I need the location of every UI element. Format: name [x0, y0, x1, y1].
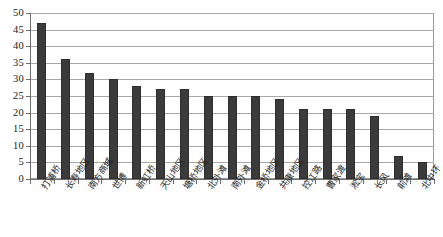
x-tick-mark [315, 180, 316, 184]
x-tick-mark [196, 180, 197, 184]
x-tick-mark [149, 180, 150, 184]
x-tick-mark [244, 180, 245, 184]
bar[interactable] [61, 59, 70, 179]
x-tick-mark [434, 180, 435, 184]
bar[interactable] [204, 96, 213, 179]
bar[interactable] [370, 116, 379, 179]
bar[interactable] [251, 96, 260, 179]
y-tick-label: 30 [0, 74, 24, 84]
y-tick-label: 20 [0, 108, 24, 118]
bar[interactable] [109, 79, 118, 179]
y-tick-label: 0 [0, 174, 24, 184]
x-tick-mark [173, 180, 174, 184]
x-tick-mark [125, 180, 126, 184]
x-tick-mark [220, 180, 221, 184]
bar[interactable] [228, 96, 237, 179]
x-tick-mark [386, 180, 387, 184]
x-tick-mark [101, 180, 102, 184]
y-tick-label: 45 [0, 25, 24, 35]
bars-layer [30, 13, 434, 179]
bar-chart: 05101520253035404550 打浦桥长寿地区南方商城世博新虹桥天山地… [0, 0, 443, 237]
bar[interactable] [346, 109, 355, 179]
y-tick-label: 25 [0, 91, 24, 101]
bar[interactable] [299, 109, 308, 179]
x-tick-mark [268, 180, 269, 184]
y-tick-label: 10 [0, 141, 24, 151]
bar[interactable] [394, 156, 403, 179]
x-tick-mark [78, 180, 79, 184]
bar[interactable] [180, 89, 189, 179]
y-tick-label: 5 [0, 157, 24, 167]
bar[interactable] [132, 86, 141, 179]
x-tick-mark [410, 180, 411, 184]
x-tick-mark [54, 180, 55, 184]
x-tick-mark [363, 180, 364, 184]
y-tick-label: 15 [0, 124, 24, 134]
bar[interactable] [323, 109, 332, 179]
x-tick-mark [291, 180, 292, 184]
bar[interactable] [37, 23, 46, 179]
y-tick-label: 35 [0, 58, 24, 68]
bar[interactable] [275, 99, 284, 179]
bar[interactable] [418, 162, 427, 179]
x-tick-mark [30, 180, 31, 184]
bar[interactable] [85, 73, 94, 179]
x-tick-mark [339, 180, 340, 184]
y-tick-label: 50 [0, 8, 24, 18]
y-tick-label: 40 [0, 41, 24, 51]
x-axis-line [30, 179, 435, 180]
bar[interactable] [156, 89, 165, 179]
